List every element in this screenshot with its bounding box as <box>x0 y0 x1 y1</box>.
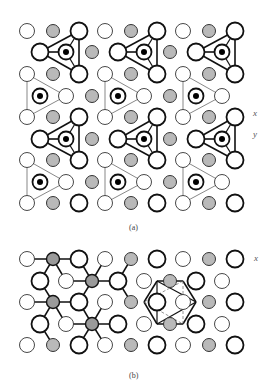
gray-atom <box>164 46 177 59</box>
large-atom <box>188 131 205 148</box>
gray-atom <box>47 339 60 352</box>
small-atom <box>176 338 191 353</box>
small-atom <box>20 295 35 310</box>
small-atom <box>137 317 152 332</box>
large-atom <box>71 109 88 126</box>
small-atom <box>59 317 74 332</box>
large-atom <box>71 294 88 311</box>
small-atom <box>20 196 35 211</box>
small-atom <box>137 89 152 104</box>
panel-b-atoms <box>20 251 244 354</box>
caption-a: (a) <box>129 223 138 232</box>
small-atom <box>98 338 113 353</box>
gray-atom <box>203 154 216 167</box>
gray-atom <box>164 90 177 103</box>
small-atom <box>98 196 113 211</box>
gray-node-atom <box>86 318 99 331</box>
gray-atom <box>203 296 216 309</box>
large-atom <box>188 316 205 333</box>
gray-atom <box>125 197 138 210</box>
large-atom <box>32 44 49 61</box>
atom-center-dot <box>115 179 121 185</box>
gray-atom <box>125 296 138 309</box>
large-atom <box>71 152 88 169</box>
small-atom <box>176 196 191 211</box>
large-atom <box>227 66 244 83</box>
small-atom <box>137 175 152 190</box>
small-atom <box>215 317 230 332</box>
large-atom <box>110 316 127 333</box>
small-atom <box>98 252 113 267</box>
gray-atom <box>47 197 60 210</box>
small-atom <box>215 274 230 289</box>
small-atom <box>59 175 74 190</box>
gray-atom <box>125 25 138 38</box>
small-atom <box>176 295 191 310</box>
small-atom <box>98 295 113 310</box>
large-atom <box>71 23 88 40</box>
large-atom <box>227 195 244 212</box>
gray-atom <box>203 111 216 124</box>
gray-node-atom <box>47 253 60 266</box>
large-atom <box>149 294 166 311</box>
gray-atom <box>47 111 60 124</box>
large-atom <box>149 23 166 40</box>
small-atom <box>20 24 35 39</box>
large-atom <box>188 273 205 290</box>
gray-atom <box>203 68 216 81</box>
large-atom <box>32 273 49 290</box>
large-atom <box>71 251 88 268</box>
atom-center-dot <box>193 179 199 185</box>
gray-atom <box>86 90 99 103</box>
large-atom <box>227 337 244 354</box>
gray-atom <box>47 25 60 38</box>
large-atom <box>188 44 205 61</box>
large-atom <box>110 44 127 61</box>
large-atom <box>149 152 166 169</box>
large-atom <box>110 131 127 148</box>
gray-atom <box>203 339 216 352</box>
large-atom <box>110 273 127 290</box>
atom-center-dot <box>37 179 43 185</box>
gray-atom <box>203 197 216 210</box>
crystal-structure-diagram <box>0 0 272 389</box>
small-atom <box>176 153 191 168</box>
gray-atom <box>125 339 138 352</box>
small-atom <box>176 67 191 82</box>
gray-atom <box>164 275 177 288</box>
large-atom <box>149 337 166 354</box>
caption-b: (b) <box>129 371 138 380</box>
gray-node-atom <box>86 275 99 288</box>
atom-center-dot <box>115 93 121 99</box>
gray-node-atom <box>47 296 60 309</box>
large-atom <box>227 251 244 268</box>
gray-atom <box>164 133 177 146</box>
small-atom <box>98 153 113 168</box>
small-atom <box>59 89 74 104</box>
small-atom <box>215 89 230 104</box>
gray-atom <box>86 176 99 189</box>
atom-center-dot <box>193 93 199 99</box>
gray-atom <box>125 68 138 81</box>
large-atom <box>227 23 244 40</box>
small-atom <box>20 153 35 168</box>
large-atom <box>32 316 49 333</box>
gray-atom <box>47 68 60 81</box>
atom-center-dot <box>37 93 43 99</box>
gray-atom <box>86 133 99 146</box>
small-atom <box>20 252 35 267</box>
small-atom <box>59 274 74 289</box>
gray-atom <box>164 318 177 331</box>
gray-atom <box>203 253 216 266</box>
large-atom <box>227 109 244 126</box>
atom-center-dot <box>63 136 69 142</box>
atom-center-dot <box>219 49 225 55</box>
large-atom <box>32 131 49 148</box>
large-atom <box>149 251 166 268</box>
atom-center-dot <box>141 49 147 55</box>
atom-center-dot <box>141 136 147 142</box>
large-atom <box>71 66 88 83</box>
small-atom <box>20 110 35 125</box>
large-atom <box>227 152 244 169</box>
small-atom <box>20 67 35 82</box>
